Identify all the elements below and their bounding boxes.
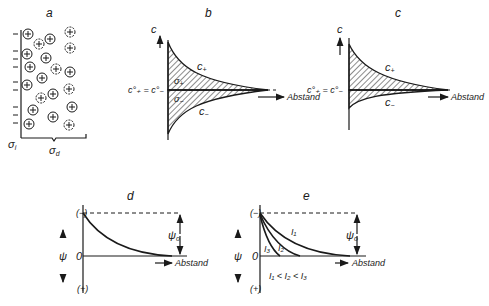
- e-I3-label: I₃: [264, 244, 271, 254]
- panel-e-label: e: [303, 189, 310, 203]
- b-y-axis-label: c: [151, 23, 157, 35]
- d-potential-curve: [83, 213, 172, 256]
- e-y-top-label: (−): [250, 208, 261, 218]
- sigma-d-label: σd: [49, 144, 61, 157]
- panel-d-label: d: [127, 189, 134, 203]
- d-y-zero-label: 0: [76, 250, 83, 262]
- b-c-plus-label: c+: [197, 60, 207, 73]
- panel-d: d ψo (−) 0 (+) ψ Abstand: [59, 189, 209, 294]
- b-bulk-eq-label: c°₊ = c°₋: [128, 85, 164, 95]
- panel-c-label: c: [395, 6, 401, 20]
- panel-a-label: a: [46, 6, 53, 20]
- e-relation-label: I₁ < I₂ < I₃: [269, 271, 307, 281]
- panel-c: c c Abstand c+ c− c°₊ = c°₋: [307, 6, 485, 130]
- panel-b: b c Abstand c+ c− σ+ σ− c°₊ = c°₋: [128, 6, 321, 140]
- diffuse-layer-brace: [21, 134, 86, 141]
- surface-charge-ticks: [13, 34, 18, 123]
- panel-b-label: b: [205, 6, 212, 20]
- c-y-axis-label: c: [337, 23, 343, 35]
- e-I2-label: I₂: [278, 243, 285, 253]
- c-bulk-eq-label: c°₊ = c°₋: [307, 85, 343, 95]
- e-y-zero-label: 0: [252, 250, 259, 262]
- b-anion-deficit-area: [168, 90, 268, 134]
- d-x-axis-label: Abstand: [174, 258, 209, 268]
- e-y-bottom-label: (+): [250, 284, 261, 294]
- b-c-minus-label: c−: [199, 105, 209, 118]
- d-psi0-label: ψo: [168, 229, 180, 242]
- cations: [22, 29, 77, 129]
- e-psi0-label: ψo: [346, 229, 358, 242]
- d-y-bottom-label: (+): [77, 284, 88, 294]
- d-y-top-label: (−): [76, 208, 87, 218]
- e-x-axis-label: Abstand: [351, 258, 386, 268]
- figure-canvas: a: [0, 0, 489, 306]
- panel-a: a: [8, 6, 86, 157]
- e-y-axis-label: ψ: [234, 250, 242, 262]
- c-x-axis-label: Abstand: [450, 92, 485, 102]
- d-y-axis-label: ψ: [59, 250, 67, 262]
- e-I1-label: I₁: [291, 227, 297, 237]
- sigma-i-label: σi: [8, 138, 17, 151]
- c-c-plus-label: c+: [385, 61, 395, 74]
- panel-e: e I₁ I₂ I₃ ψo (−) 0 (+) ψ Abstand I₁ < I…: [234, 189, 386, 294]
- c-anion-area: [349, 90, 448, 108]
- c-c-minus-label: c−: [385, 96, 395, 109]
- c-cation-area: [349, 44, 448, 90]
